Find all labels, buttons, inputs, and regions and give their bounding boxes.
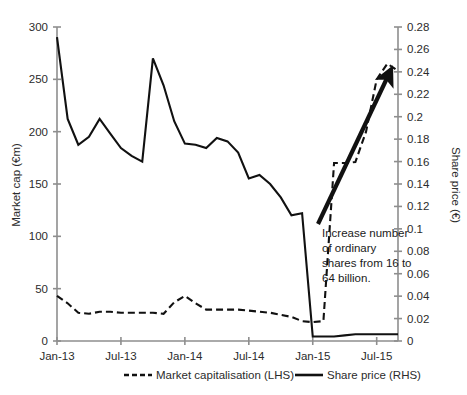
right-axis-tick-label: 0.1 bbox=[407, 223, 423, 235]
x-axis-tick-label: Jan-14 bbox=[167, 350, 203, 362]
left-axis-tick-label: 50 bbox=[35, 283, 48, 295]
right-axis-tick-label: 0.26 bbox=[407, 43, 429, 55]
right-axis-tick-label: 0.18 bbox=[407, 133, 429, 145]
right-axis-tick-label: 0.02 bbox=[407, 313, 429, 325]
left-axis-tick-label: 150 bbox=[29, 178, 48, 190]
legend-label: Market capitalisation (LHS) bbox=[156, 369, 294, 381]
left-axis-title: Market cap (€m) bbox=[10, 143, 22, 227]
right-axis-tick-label: 0.22 bbox=[407, 88, 429, 100]
x-axis-tick-label: Jul-13 bbox=[105, 350, 136, 362]
left-axis-tick-label: 0 bbox=[42, 335, 48, 347]
right-axis-tick-label: 0.08 bbox=[407, 245, 429, 257]
left-axis-tick-label: 250 bbox=[29, 73, 48, 85]
chart-container: 050100150200250300 00.020.040.060.080.10… bbox=[0, 0, 467, 395]
right-axis-tick-label: 0.14 bbox=[407, 178, 430, 190]
right-axis-tick-label: 0.28 bbox=[407, 21, 429, 33]
x-axis-tick-label: Jan-15 bbox=[295, 350, 330, 362]
right-axis-tick-label: 0.04 bbox=[407, 290, 430, 302]
chart-legend: Market capitalisation (LHS)Share price (… bbox=[124, 369, 421, 381]
dual-axis-line-chart: 050100150200250300 00.020.040.060.080.10… bbox=[0, 0, 467, 395]
legend-label: Share price (RHS) bbox=[327, 369, 421, 381]
right-axis-tick-label: 0.06 bbox=[407, 268, 429, 280]
chart-background bbox=[0, 0, 467, 395]
x-axis-tick-label: Jul-14 bbox=[233, 350, 265, 362]
right-axis-tick-label: 0.2 bbox=[407, 111, 423, 123]
right-axis-tick-label: 0 bbox=[407, 335, 413, 347]
right-axis-tick-label: 0.24 bbox=[407, 66, 430, 78]
right-axis-tick-label: 0.12 bbox=[407, 200, 429, 212]
x-axis-tick-label: Jul-15 bbox=[361, 350, 392, 362]
left-axis-tick-label: 300 bbox=[29, 21, 48, 33]
left-axis-tick-label: 100 bbox=[29, 230, 48, 242]
left-axis-tick-label: 200 bbox=[29, 126, 48, 138]
right-axis-tick-label: 0.16 bbox=[407, 156, 429, 168]
right-axis-title: Share price (€) bbox=[450, 147, 462, 223]
x-axis-tick-label: Jan-13 bbox=[39, 350, 74, 362]
